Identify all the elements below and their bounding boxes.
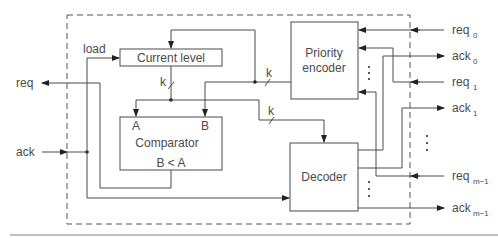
priority-label: Priority bbox=[305, 46, 342, 60]
decoder-label: Decoder bbox=[301, 170, 346, 184]
port-ack1: ack 1 bbox=[452, 101, 478, 118]
bus-width-label: k bbox=[160, 75, 167, 89]
comparator-output-label: B < A bbox=[156, 156, 185, 170]
port-req-m1: req m−1 bbox=[452, 169, 489, 186]
decoder-block: Decoder bbox=[290, 143, 358, 211]
svg-text:1: 1 bbox=[473, 83, 478, 92]
bus-width-label: k bbox=[266, 66, 273, 80]
port-ack0: ack 0 bbox=[452, 49, 478, 66]
svg-text:1: 1 bbox=[473, 109, 478, 118]
req-label: req bbox=[16, 76, 33, 90]
svg-text:0: 0 bbox=[473, 31, 478, 40]
system-boundary bbox=[67, 15, 410, 224]
ellipsis-decoder-outputs bbox=[368, 181, 370, 197]
svg-text:ack: ack bbox=[452, 201, 472, 215]
ack1-wire bbox=[358, 108, 444, 168]
port-req0: req 0 bbox=[452, 23, 478, 40]
ellipsis-right-ports bbox=[426, 135, 428, 151]
ack0-wire bbox=[358, 56, 444, 150]
arbiter-diagram: Current level Priority encoder A B Compa… bbox=[0, 0, 498, 238]
current-level-label: Current level bbox=[137, 51, 205, 65]
port-req1: req 1 bbox=[452, 75, 478, 92]
ack-label: ack bbox=[16, 145, 36, 159]
encoder-label: encoder bbox=[302, 61, 345, 75]
svg-text:ack: ack bbox=[452, 49, 472, 63]
comparator-block: A B Comparator B < A bbox=[120, 117, 222, 170]
ellipsis-encoder-inputs bbox=[368, 66, 370, 80]
req1-wire bbox=[359, 48, 444, 82]
current-level-output-wire bbox=[136, 66, 171, 116]
bus-width-label: k bbox=[268, 104, 275, 118]
svg-text:m−1: m−1 bbox=[473, 177, 489, 186]
load-wire bbox=[87, 58, 119, 198]
comparator-input-a: A bbox=[132, 119, 140, 133]
junction-dot bbox=[253, 80, 257, 84]
encoder-output-wire bbox=[205, 82, 291, 116]
svg-text:req: req bbox=[452, 23, 469, 37]
comparator-input-b: B bbox=[201, 119, 209, 133]
svg-text:ack: ack bbox=[452, 101, 472, 115]
load-label: load bbox=[83, 42, 106, 56]
svg-text:req: req bbox=[452, 169, 469, 183]
current-level-block: Current level bbox=[120, 49, 222, 66]
svg-text:0: 0 bbox=[473, 57, 478, 66]
port-ack-m1: ack m−1 bbox=[452, 201, 489, 218]
comparator-label: Comparator bbox=[135, 136, 198, 150]
svg-text:m−1: m−1 bbox=[473, 209, 489, 218]
svg-text:req: req bbox=[452, 75, 469, 89]
priority-encoder-block: Priority encoder bbox=[291, 22, 358, 99]
